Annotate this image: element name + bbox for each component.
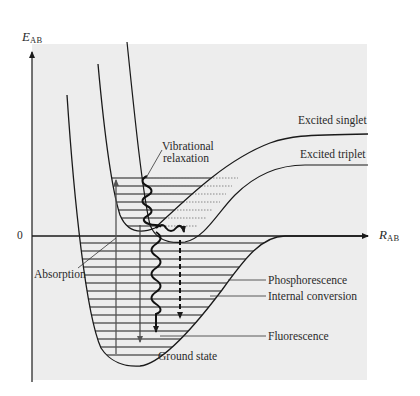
- excited-singlet-label: Excited singlet: [298, 114, 367, 127]
- y-axis-label: EAB: [22, 30, 42, 47]
- potential-energy-curves: [0, 0, 420, 396]
- internal-conversion-label: Internal conversion: [268, 290, 357, 303]
- ground-state-label: Ground state: [158, 350, 217, 363]
- internal-conversion-wave: [152, 232, 161, 332]
- excited-triplet-dotted-levels: [150, 178, 238, 226]
- intersystem-crossing-wave: [156, 225, 184, 232]
- phosphorescence-label: Phosphorescence: [268, 274, 347, 287]
- zero-label: 0: [17, 229, 23, 242]
- fluorescence-label: Fluorescence: [268, 330, 329, 343]
- absorption-label: Absorption: [34, 268, 86, 281]
- vibrational-leader: [146, 150, 162, 178]
- x-axis-label: RAB: [379, 228, 399, 245]
- vibrational-relaxation-label-line2: relaxation: [163, 152, 209, 165]
- jablonski-energy-diagram: EAB RAB 0 Excited singlet Excited triple…: [0, 0, 420, 396]
- excited-triplet-label: Excited triplet: [300, 148, 365, 161]
